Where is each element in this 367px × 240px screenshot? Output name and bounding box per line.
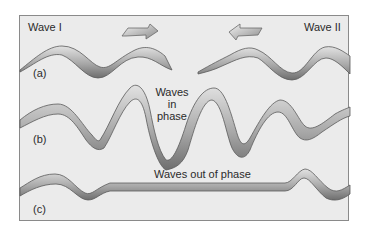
panel-a-label: (a): [33, 67, 46, 79]
in-phase-label-line3: phase: [152, 110, 192, 122]
wave-ii-ribbon: [198, 47, 350, 80]
wave-i-label: Wave I: [28, 21, 62, 33]
in-phase-label-line1: Waves: [152, 86, 192, 98]
panel-b-label: (b): [33, 133, 46, 145]
right-arrow-icon: [122, 24, 158, 39]
left-arrow-icon: [229, 24, 262, 40]
in-phase-label-line2: in: [152, 98, 192, 110]
panel-c-label: (c): [33, 203, 46, 215]
wave-ii-label: Wave II: [304, 21, 341, 33]
out-of-phase-label: Waves out of phase: [154, 168, 251, 180]
